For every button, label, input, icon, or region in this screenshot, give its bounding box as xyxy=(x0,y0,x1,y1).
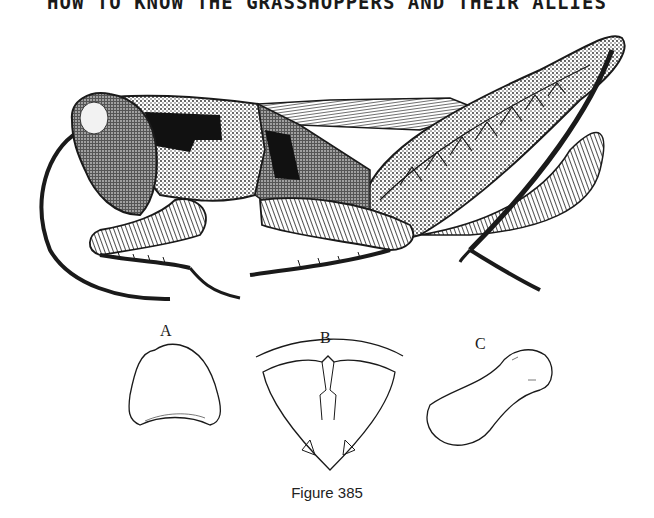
detail-b-outline xyxy=(263,356,395,470)
detail-label-a: A xyxy=(160,322,172,340)
figure-caption: Figure 385 xyxy=(0,484,654,501)
front-tarsus xyxy=(190,268,240,298)
front-femur xyxy=(90,199,206,255)
hind-tarsus xyxy=(470,250,540,290)
detail-label-b: B xyxy=(320,329,331,347)
grasshopper-illustration xyxy=(0,0,654,518)
compound-eye xyxy=(80,102,108,134)
detail-label-c: C xyxy=(475,335,486,353)
front-tibia xyxy=(100,255,190,268)
detail-c-outline xyxy=(427,350,552,445)
detail-a-outline xyxy=(129,344,220,425)
